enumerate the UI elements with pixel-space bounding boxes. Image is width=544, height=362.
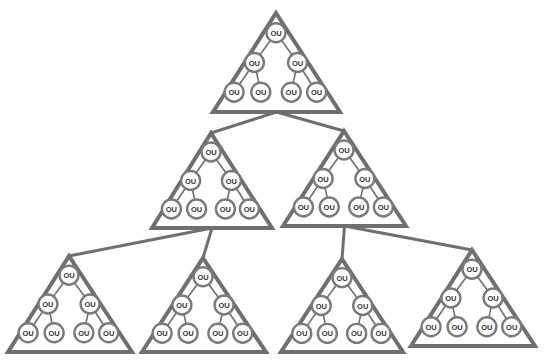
ou-node: OU — [225, 83, 244, 102]
ou-node: OU — [202, 143, 221, 162]
ou-node: OU — [179, 324, 198, 343]
ou-node-label: OU — [451, 323, 462, 332]
ou-node-label: OU — [357, 302, 368, 311]
ou-node-label: OU — [212, 329, 223, 338]
ou-node-label: OU — [316, 302, 327, 311]
ou-node: OU — [441, 289, 460, 308]
ou-node-label: OU — [249, 59, 260, 68]
ou-node: OU — [216, 200, 235, 219]
ou-node-label: OU — [270, 29, 281, 38]
ou-node-label: OU — [322, 329, 333, 338]
ou-node: OU — [172, 296, 191, 315]
ou-node-label: OU — [48, 329, 59, 338]
ou-triangle-bottom-3: OUOUOUOUOUOUOU — [281, 259, 403, 352]
ou-node: OU — [215, 296, 234, 315]
ou-node: OU — [162, 200, 181, 219]
ou-node-label: OU — [487, 294, 498, 303]
link-top-to-mid-right — [277, 112, 345, 131]
ou-node-label: OU — [286, 88, 297, 97]
ou-node-label: OU — [359, 175, 370, 184]
ou-node: OU — [502, 317, 521, 336]
ou-node: OU — [187, 200, 206, 219]
link-mid-right-to-bottom-4 — [345, 226, 473, 250]
ou-node-label: OU — [237, 329, 248, 338]
ou-node: OU — [74, 323, 93, 342]
ou-node-label: OU — [324, 203, 335, 212]
ou-node: OU — [222, 171, 241, 190]
ou-node-label: OU — [42, 300, 53, 309]
ou-node: OU — [292, 324, 311, 343]
ou-node-label: OU — [228, 88, 239, 97]
ou-node: OU — [19, 323, 38, 342]
ou-node-label: OU — [445, 294, 456, 303]
ou-node: OU — [463, 260, 482, 279]
ou-node-label: OU — [63, 271, 74, 280]
ou-triangle-mid-left: OUOUOUOUOUOUOU — [152, 133, 272, 228]
ou-node: OU — [312, 296, 331, 315]
ou-node-label: OU — [317, 175, 328, 184]
ou-node: OU — [355, 169, 374, 188]
ou-node-label: OU — [156, 329, 167, 338]
ou-node-label: OU — [338, 146, 349, 155]
ou-node-label: OU — [197, 273, 208, 282]
ou-node: OU — [374, 198, 393, 217]
ou-triangle-bottom-4: OUOUOUOUOUOUOU — [411, 250, 535, 346]
ou-node-label: OU — [375, 329, 386, 338]
ou-node: OU — [335, 141, 354, 160]
ou-node-label: OU — [296, 329, 307, 338]
ou-node: OU — [307, 83, 326, 102]
ou-triangle-top: OUOUOUOUOUOUOU — [213, 13, 340, 112]
ou-node: OU — [233, 324, 252, 343]
link-mid-left-to-bottom-1 — [69, 228, 212, 256]
ou-node-label: OU — [351, 329, 362, 338]
ou-node: OU — [208, 324, 227, 343]
ou-node-label: OU — [205, 148, 216, 157]
ou-node: OU — [318, 324, 337, 343]
triangle-links — [69, 112, 472, 259]
ou-node: OU — [347, 324, 366, 343]
ou-node-label: OU — [226, 177, 237, 186]
ou-node-label: OU — [353, 203, 364, 212]
ou-node-label: OU — [103, 329, 114, 338]
ou-node: OU — [45, 323, 64, 342]
ou-node-label: OU — [378, 203, 389, 212]
ou-node: OU — [477, 317, 496, 336]
ou-triangles: OUOUOUOUOUOUOUOUOUOUOUOUOUOUOUOUOUOUOUOU… — [8, 13, 535, 352]
ou-node: OU — [282, 83, 301, 102]
ou-node-label: OU — [506, 323, 517, 332]
ou-triangle-bottom-2: OUOUOUOUOUOUOU — [142, 258, 266, 352]
ou-node-label: OU — [425, 323, 436, 332]
ou-node-label: OU — [220, 205, 231, 214]
ou-node: OU — [153, 324, 172, 343]
ou-node-label: OU — [311, 88, 322, 97]
ou-node-label: OU — [218, 301, 229, 310]
ou-triangle-mid-right: OUOUOUOUOUOUOU — [283, 131, 406, 226]
ou-node: OU — [251, 83, 270, 102]
link-top-to-mid-left — [211, 112, 277, 133]
ou-node-label: OU — [22, 329, 33, 338]
ou-node: OU — [448, 317, 467, 336]
link-mid-right-to-bottom-3 — [342, 226, 345, 259]
ou-node-label: OU — [481, 323, 492, 332]
ou-node-label: OU — [466, 265, 477, 274]
ou-node-label: OU — [166, 205, 177, 214]
ou-node-label: OU — [182, 329, 193, 338]
ou-node: OU — [288, 53, 307, 72]
ou-node: OU — [314, 169, 333, 188]
ou-node: OU — [38, 295, 57, 314]
ou-node-label: OU — [244, 205, 255, 214]
ou-node-label: OU — [84, 300, 95, 309]
ou-triangle-bottom-1: OUOUOUOUOUOUOU — [8, 256, 132, 352]
ou-node-label: OU — [298, 203, 309, 212]
ou-node-label: OU — [78, 329, 89, 338]
ou-node: OU — [349, 198, 368, 217]
ou-hierarchy-diagram: OUOUOUOUOUOUOUOUOUOUOUOUOUOUOUOUOUOUOUOU… — [0, 0, 544, 362]
ou-node: OU — [294, 198, 313, 217]
ou-node-label: OU — [185, 177, 196, 186]
ou-node-label: OU — [191, 205, 202, 214]
ou-node: OU — [99, 323, 118, 342]
ou-node-label: OU — [255, 88, 266, 97]
ou-node: OU — [267, 23, 286, 42]
ou-node: OU — [484, 289, 503, 308]
ou-node-label: OU — [176, 301, 187, 310]
